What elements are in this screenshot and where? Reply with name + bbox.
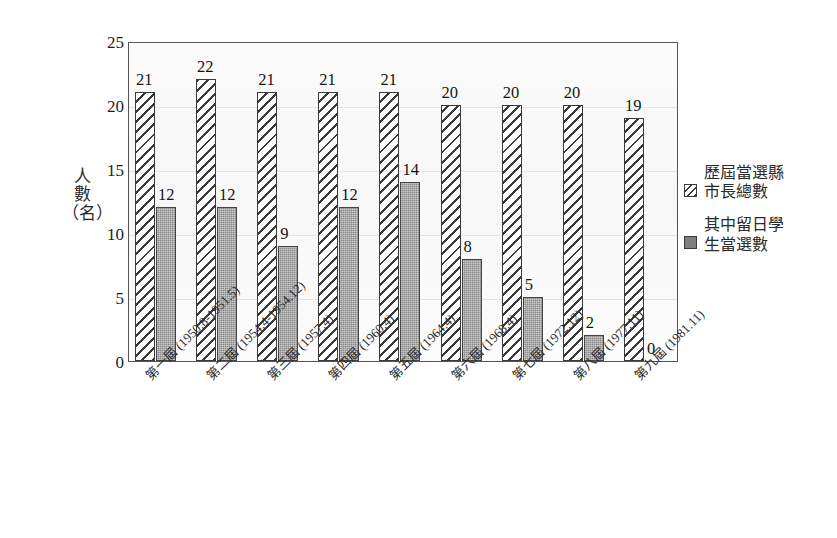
- bar-group: 2112: [129, 43, 190, 361]
- bar-value-japan-educated: 12: [341, 185, 358, 205]
- y-axis-title-char-2: （: [62, 204, 79, 223]
- bar-value-total: 21: [136, 70, 153, 90]
- bar-value-total: 21: [258, 70, 275, 90]
- y-tick-label-10: 10: [94, 225, 124, 245]
- legend-item-total: 歷屆當選縣 市長總數: [684, 163, 834, 201]
- bar-value-total: 19: [625, 96, 642, 116]
- bar-value-japan-educated: 8: [464, 237, 472, 257]
- bar-value-total: 22: [197, 57, 214, 77]
- legend-label-total-line-1: 市長總數: [704, 182, 784, 201]
- bar-chart-figure: 人 數 （名） 25 20 15 10 5 0 2112221221921122…: [0, 0, 837, 538]
- y-axis-title-char-1: 數: [62, 186, 102, 204]
- bar-value-total: 20: [442, 83, 459, 103]
- bar-value-total: 21: [380, 70, 397, 90]
- chart-legend: 歷屆當選縣 市長總數 其中留日學 生當選數: [684, 163, 834, 268]
- bar-total[interactable]: [135, 92, 155, 361]
- legend-label-japan-line-1: 生當選數: [704, 235, 784, 254]
- legend-swatch-hatched-icon: [684, 184, 697, 197]
- y-tick-label-20: 20: [94, 97, 124, 117]
- bar-value-japan-educated: 2: [586, 313, 594, 333]
- y-axis-title-char-3: 名: [79, 204, 96, 223]
- bar-value-total: 20: [564, 83, 581, 103]
- bar-value-total: 20: [503, 83, 520, 103]
- bar-value-japan-educated: 9: [280, 224, 288, 244]
- legend-label-total-line-0: 歷屆當選縣: [704, 163, 784, 182]
- y-tick-label-0: 0: [94, 353, 124, 373]
- y-tick-label-15: 15: [94, 161, 124, 181]
- y-axis-title-char-4: ）: [96, 204, 113, 223]
- bar-value-japan-educated: 12: [158, 185, 175, 205]
- y-tick-label-25: 25: [94, 33, 124, 53]
- bar-japan-educated[interactable]: [400, 182, 420, 361]
- y-axis-title-char-2-3-4: （名）: [62, 205, 102, 223]
- legend-item-japan-educated: 其中留日學 生當選數: [684, 215, 834, 253]
- bar-value-total: 21: [319, 70, 336, 90]
- y-tick-label-5: 5: [94, 289, 124, 309]
- legend-swatch-solid-icon: [684, 236, 697, 249]
- bar-value-japan-educated: 14: [402, 160, 419, 180]
- legend-label-total: 歷屆當選縣 市長總數: [704, 163, 784, 201]
- bar-value-japan-educated: 12: [219, 185, 236, 205]
- legend-label-japan-educated: 其中留日學 生當選數: [704, 215, 784, 253]
- legend-label-japan-line-0: 其中留日學: [704, 215, 784, 234]
- bar-value-japan-educated: 5: [525, 275, 533, 295]
